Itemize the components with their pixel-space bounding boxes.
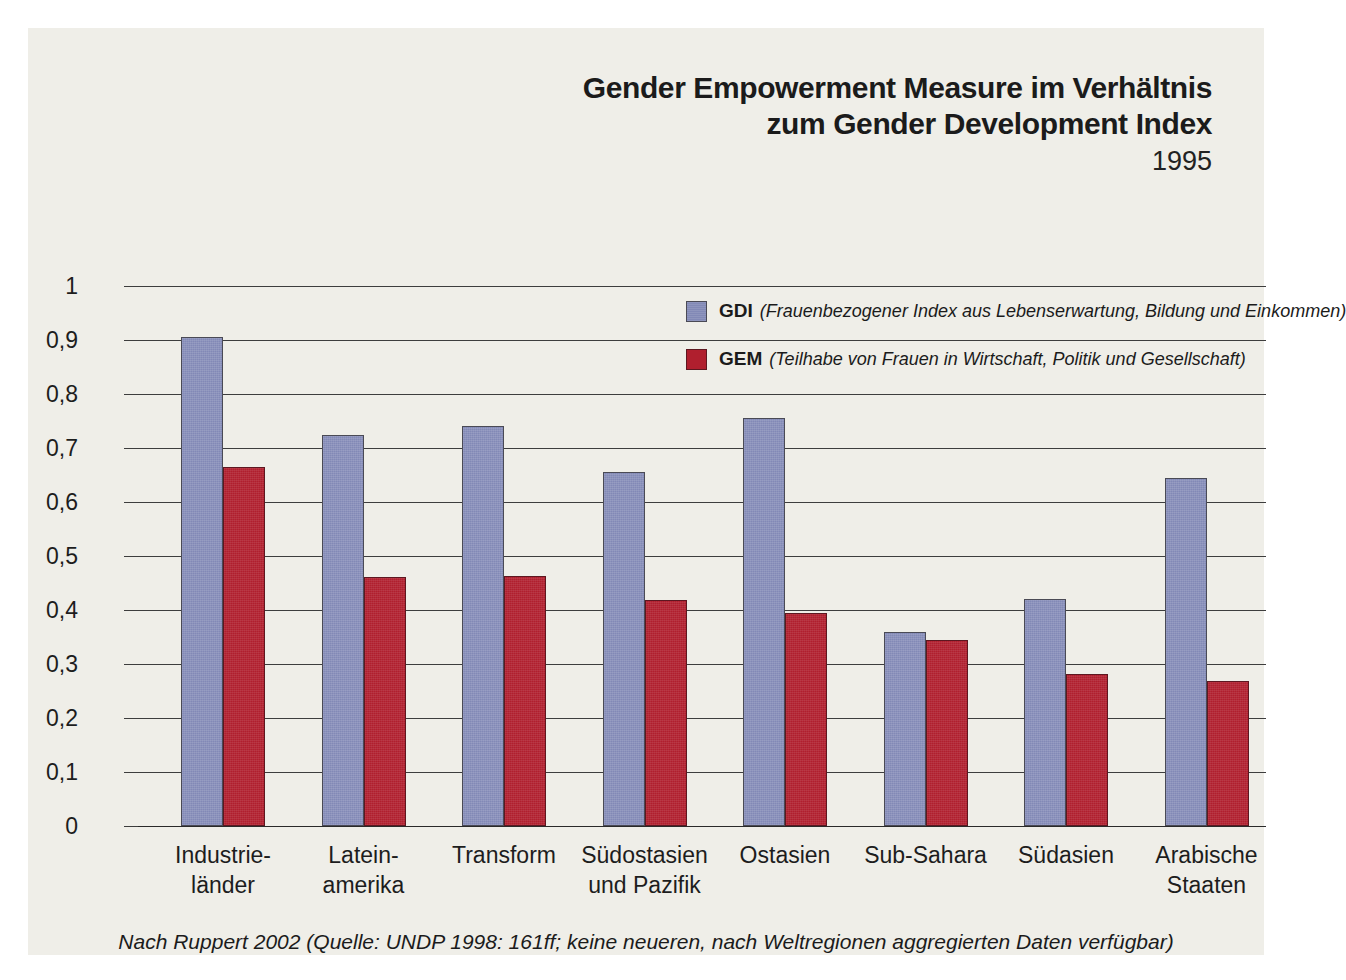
bar-gem-1 <box>364 577 406 826</box>
gridline <box>138 286 1266 287</box>
gridline <box>138 556 1266 557</box>
bar-gdi-5 <box>884 632 926 826</box>
y-axis-tick-label: 0,4 <box>18 597 78 624</box>
y-axis-tick-label: 0,3 <box>18 651 78 678</box>
chart-subtitle-year: 1995 <box>492 144 1212 178</box>
bar-gdi-0 <box>181 337 223 826</box>
gridline <box>138 610 1266 611</box>
y-axis-tick-label: 0,1 <box>18 759 78 786</box>
gridline <box>138 448 1266 449</box>
y-axis-tick <box>124 448 138 449</box>
figure-panel: Gender Empowerment Measure im Verhältnis… <box>28 28 1264 955</box>
x-axis-category-label: ArabischeStaaten <box>1112 840 1302 900</box>
y-axis-tick-label: 0 <box>18 813 78 840</box>
bar-gdi-7 <box>1165 478 1207 826</box>
y-axis-tick-label: 0,5 <box>18 543 78 570</box>
category-label-line-2: amerika <box>269 870 459 900</box>
bar-gem-2 <box>504 576 546 826</box>
y-axis-tick <box>124 610 138 611</box>
legend-item-gdi: GDI(Frauenbezogener Index aus Lebenserwa… <box>686 300 1246 322</box>
bar-gem-0 <box>223 467 265 826</box>
y-axis-tick-label: 0,6 <box>18 489 78 516</box>
chart-caption: Nach Ruppert 2002 (Quelle: UNDP 1998: 16… <box>28 930 1264 954</box>
bar-gdi-3 <box>603 472 645 826</box>
y-axis-tick <box>124 826 138 827</box>
bar-gem-5 <box>926 640 968 826</box>
y-axis-tick <box>124 718 138 719</box>
bar-gem-4 <box>785 613 827 826</box>
legend-description-gdi: (Frauenbezogener Index aus Lebenserwartu… <box>760 300 1346 322</box>
bar-gdi-2 <box>462 426 504 826</box>
y-axis-tick <box>124 664 138 665</box>
y-axis-tick <box>124 772 138 773</box>
legend-swatch-gdi <box>686 301 707 322</box>
bar-gem-6 <box>1066 674 1108 826</box>
chart-title-block: Gender Empowerment Measure im Verhältnis… <box>492 70 1212 178</box>
gridline <box>138 502 1266 503</box>
y-axis-tick-label: 0,8 <box>18 381 78 408</box>
y-axis-tick <box>124 502 138 503</box>
y-axis-tick <box>124 286 138 287</box>
category-label-line-2: Staaten <box>1112 870 1302 900</box>
y-axis-tick-label: 0,2 <box>18 705 78 732</box>
bar-gdi-6 <box>1024 599 1066 826</box>
chart-legend: GDI(Frauenbezogener Index aus Lebenserwa… <box>686 300 1246 396</box>
legend-key-gem: GEM <box>719 348 762 370</box>
category-label-line-1: Arabische <box>1112 840 1302 870</box>
y-axis-tick <box>124 340 138 341</box>
bar-gem-7 <box>1207 681 1249 826</box>
y-axis-tick-label: 0,7 <box>18 435 78 462</box>
chart-title-line-2: zum Gender Development Index <box>492 106 1212 142</box>
bar-gdi-1 <box>322 435 364 827</box>
y-axis-tick-label: 1 <box>18 273 78 300</box>
gridline <box>138 826 1266 827</box>
legend-key-gdi: GDI <box>719 300 753 322</box>
y-axis-tick-label: 0,9 <box>18 327 78 354</box>
legend-description-gem: (Teilhabe von Frauen in Wirtschaft, Poli… <box>769 348 1245 370</box>
y-axis-tick <box>124 556 138 557</box>
legend-item-gem: GEM(Teilhabe von Frauen in Wirtschaft, P… <box>686 348 1246 370</box>
bar-gdi-4 <box>743 418 785 826</box>
y-axis-tick <box>124 394 138 395</box>
bar-gem-3 <box>645 600 687 826</box>
legend-swatch-gem <box>686 349 707 370</box>
chart-title-line-1: Gender Empowerment Measure im Verhältnis <box>492 70 1212 106</box>
category-label-line-2: und Pazifik <box>550 870 740 900</box>
gridline <box>138 664 1266 665</box>
